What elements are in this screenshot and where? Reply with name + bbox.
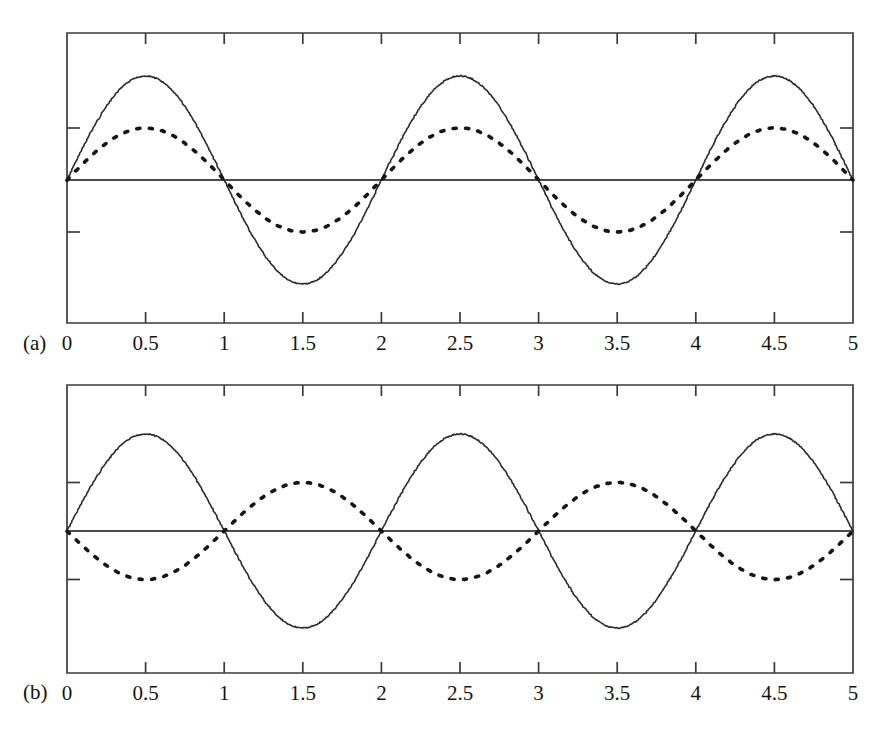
x-tick-label: 2 [376, 681, 387, 705]
x-tick-label: 2.5 [447, 681, 473, 705]
x-tick-label: 1 [219, 681, 230, 705]
panel-b-letter: (b) [23, 682, 48, 703]
figure-root: 00.511.522.533.544.55 (a) 00.511.522.533… [0, 0, 887, 731]
panel-b-x-tick-marks [146, 385, 775, 673]
panel-b-plot: 00.511.522.533.544.55 [0, 352, 887, 731]
x-tick-label: 5 [848, 681, 859, 705]
panel-a: 00.511.522.533.544.55 (a) [0, 0, 887, 360]
panel-b-x-tick-labels: 00.511.522.533.544.55 [62, 681, 859, 705]
x-tick-label: 3 [533, 681, 544, 705]
x-tick-label: 4 [691, 681, 702, 705]
x-tick-label: 0 [62, 681, 73, 705]
panel-a-plot: 00.511.522.533.544.55 [0, 0, 887, 360]
x-tick-label: 4.5 [761, 681, 787, 705]
panel-b-axes [67, 385, 853, 673]
panel-a-letter: (a) [23, 333, 46, 354]
x-tick-label: 0.5 [132, 681, 158, 705]
panel-b: 00.511.522.533.544.55 (b) [0, 352, 887, 731]
x-tick-label: 1.5 [290, 681, 316, 705]
x-tick-label: 3.5 [604, 681, 630, 705]
